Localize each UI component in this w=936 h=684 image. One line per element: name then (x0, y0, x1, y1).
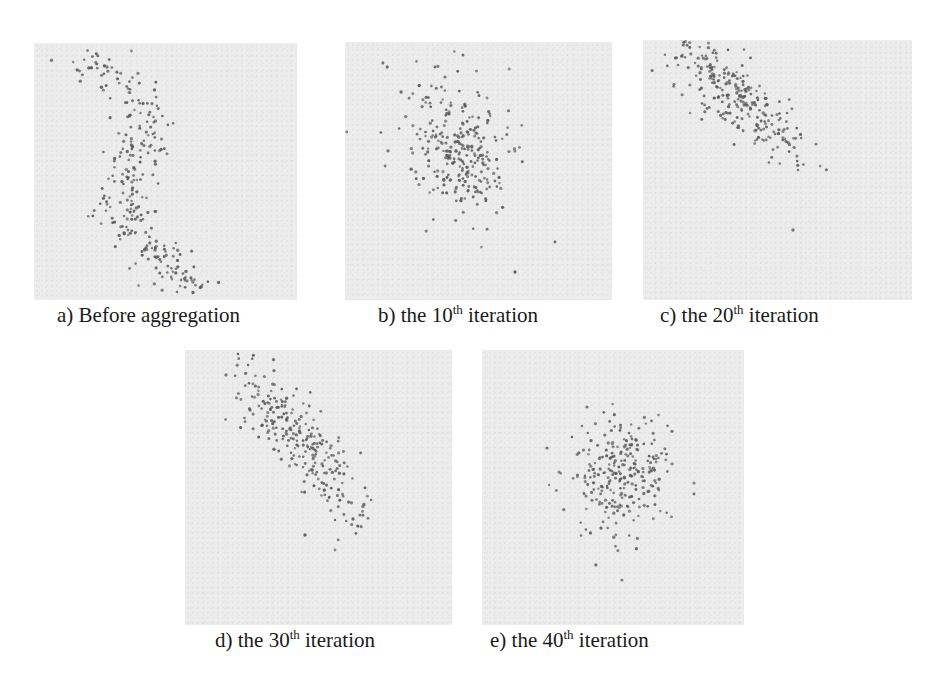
caption-e: e) the 40th iteration (490, 628, 649, 653)
scatter-panel-c (643, 40, 912, 300)
scatter-plot-e (482, 350, 744, 625)
scatter-plot-a (34, 43, 297, 300)
caption-d: d) the 30th iteration (215, 628, 375, 653)
scatter-panel-b (345, 42, 612, 300)
caption-a: a) Before aggregation (57, 303, 240, 328)
scatter-panel-d (185, 350, 452, 625)
scatter-panel-a (34, 43, 297, 300)
scatter-panel-e (482, 350, 744, 625)
scatter-plot-d (185, 350, 452, 625)
scatter-plot-c (643, 40, 912, 300)
caption-b: b) the 10th iteration (378, 303, 538, 328)
caption-c: c) the 20th iteration (660, 303, 819, 328)
scatter-plot-b (345, 42, 612, 300)
